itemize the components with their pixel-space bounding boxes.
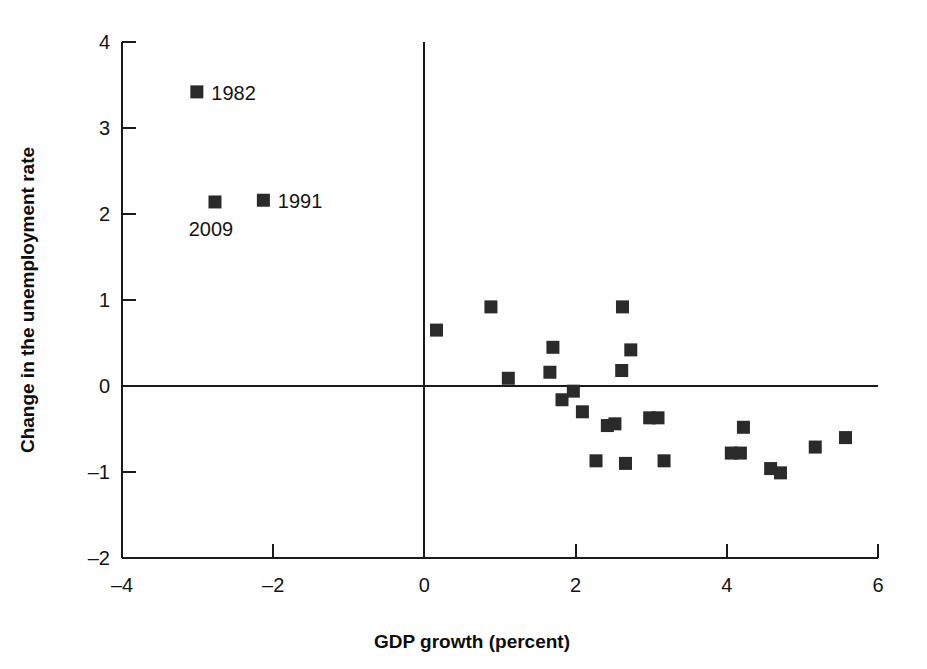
x-tick-label: –4 <box>111 574 133 596</box>
data-point-marker[interactable] <box>615 364 628 377</box>
data-point-marker[interactable] <box>543 366 556 379</box>
data-point-marker[interactable] <box>257 194 270 207</box>
data-point-marker[interactable] <box>774 466 787 479</box>
y-tick-label: 2 <box>99 203 110 225</box>
x-axis-title: GDP growth (percent) <box>374 631 570 652</box>
zero-reference-lines <box>122 42 878 558</box>
data-point-marker[interactable] <box>619 457 632 470</box>
point-annotation-label: 2009 <box>189 218 234 240</box>
data-point-marker[interactable] <box>576 405 589 418</box>
data-point-marker[interactable] <box>658 454 671 467</box>
x-tick-label: 2 <box>570 574 581 596</box>
point-annotation-label: 1982 <box>211 82 256 104</box>
point-annotations-layer: 198220091991 <box>189 82 323 240</box>
data-point-marker[interactable] <box>567 385 580 398</box>
data-point-marker[interactable] <box>616 300 629 313</box>
y-tick-label: 1 <box>99 289 110 311</box>
data-point-marker[interactable] <box>190 85 203 98</box>
x-tick-label: 0 <box>419 574 430 596</box>
chart-figure: –2–101234–4–20246 198220091991 GDP growt… <box>0 0 927 669</box>
data-point-marker[interactable] <box>809 441 822 454</box>
data-point-marker[interactable] <box>546 341 559 354</box>
data-point-marker[interactable] <box>839 431 852 444</box>
data-point-marker[interactable] <box>652 411 665 424</box>
data-point-marker[interactable] <box>734 447 747 460</box>
y-tick-label: 3 <box>99 117 110 139</box>
y-axis-title: Change in the unemployment rate <box>17 147 38 453</box>
data-point-marker[interactable] <box>555 393 568 406</box>
data-point-marker[interactable] <box>737 421 750 434</box>
y-tick-label: –2 <box>88 547 110 569</box>
y-tick-label: 4 <box>99 31 110 53</box>
data-point-marker[interactable] <box>624 343 637 356</box>
data-point-marker[interactable] <box>590 454 603 467</box>
data-point-marker[interactable] <box>430 324 443 337</box>
x-tick-label: 4 <box>721 574 732 596</box>
data-points-layer <box>190 85 852 479</box>
x-tick-label: –2 <box>262 574 284 596</box>
x-tick-label: 6 <box>872 574 883 596</box>
y-tick-label: 0 <box>99 375 110 397</box>
y-tick-label: –1 <box>88 461 110 483</box>
data-point-marker[interactable] <box>484 300 497 313</box>
data-point-marker[interactable] <box>608 417 621 430</box>
data-point-marker[interactable] <box>502 372 515 385</box>
data-point-marker[interactable] <box>208 195 221 208</box>
axes-layer: –2–101234–4–20246 <box>88 31 884 596</box>
scatter-plot: –2–101234–4–20246 198220091991 GDP growt… <box>0 0 927 669</box>
point-annotation-label: 1991 <box>278 190 323 212</box>
